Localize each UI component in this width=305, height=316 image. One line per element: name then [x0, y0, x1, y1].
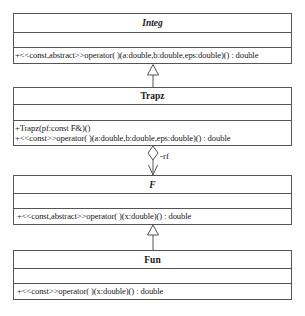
generalization-arrow-icon [148, 65, 159, 88]
operation: +<<const,abstract>>operator( )(x:double)… [17, 211, 290, 221]
operation: +<<const>>operator( )(a:double,b:double,… [15, 133, 290, 143]
class-f-name: F [14, 176, 291, 194]
aggregation-diamond-icon [148, 146, 158, 175]
class-integ-operations: +<<const,abstract>>operator( )(a:double,… [14, 48, 291, 61]
class-trapz-operations: +Trapz(pf:const F&)() +<<const>>operator… [14, 121, 291, 144]
class-fun-name: Fun [14, 251, 291, 269]
class-integ-attributes [14, 33, 291, 48]
class-fun-operations: +<<const>>operator( )(x:double)() : doub… [14, 284, 291, 297]
class-integ-name: Integ [14, 14, 291, 33]
class-fun: Fun +<<const>>operator( )(x:double)() : … [13, 250, 292, 300]
operation: +<<const>>operator( )(x:double)() : doub… [17, 286, 290, 296]
operation: +<<const,abstract>>operator( )(a:double,… [15, 50, 290, 60]
class-trapz-name: Trapz [14, 88, 291, 105]
class-f: F +<<const,abstract>>operator( )(x:doubl… [13, 175, 292, 225]
class-fun-attributes [14, 269, 291, 284]
generalization-arrow-icon [148, 225, 159, 250]
class-f-operations: +<<const,abstract>>operator( )(x:double)… [14, 209, 291, 222]
class-trapz-attributes [14, 105, 291, 121]
role-label-rf: -rf [160, 151, 169, 161]
class-trapz: Trapz +Trapz(pf:const F&)() +<<const>>op… [13, 87, 292, 146]
class-f-attributes [14, 194, 291, 209]
operation: +Trapz(pf:const F&)() [15, 123, 290, 133]
class-integ: Integ +<<const,abstract>>operator( )(a:d… [13, 13, 292, 64]
